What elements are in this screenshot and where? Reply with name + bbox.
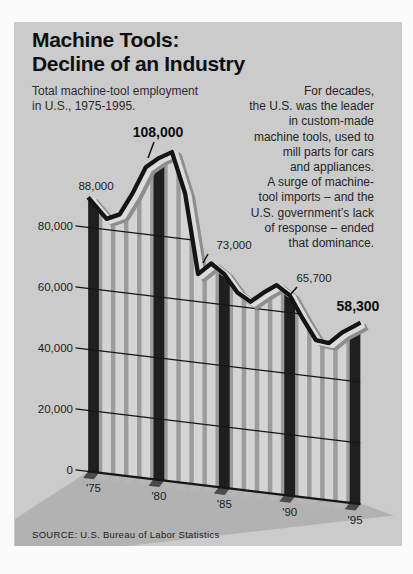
x-axis-label-85: '85 (217, 498, 232, 510)
clipped-layers (88, 80, 360, 530)
year-bar (128, 80, 137, 530)
year-bar (233, 80, 242, 530)
callout-tick (291, 287, 297, 294)
year-bar (272, 80, 281, 530)
y-tick (76, 226, 90, 228)
chart-canvas: 0 20,000 40,000 60,000 80,000 '75 '80 '8… (14, 22, 402, 546)
callout-tick (148, 142, 154, 158)
value-label-88000: 88,000 (78, 180, 113, 192)
year-bar (102, 80, 111, 530)
year-bar (88, 80, 99, 530)
x-axis-label-75: '75 (86, 482, 101, 494)
year-bar (207, 80, 216, 530)
y-tick (76, 470, 90, 472)
y-axis-label-40000: 40,000 (38, 342, 73, 354)
x-axis-label-90: '90 (282, 506, 297, 518)
year-bar (142, 80, 151, 530)
year-bar (168, 80, 177, 530)
year-bar (194, 80, 203, 530)
y-tick (76, 409, 90, 411)
year-bar (312, 80, 321, 530)
source-note: SOURCE: U.S. Bureau of Labor Statistics (32, 529, 220, 540)
value-label-65700: 65,700 (296, 272, 331, 284)
year-bar (154, 80, 165, 530)
year-bar (181, 80, 190, 530)
y-tick (76, 287, 90, 289)
value-label-108000: 108,000 (133, 124, 184, 140)
x-axis-label-80: '80 (151, 490, 166, 502)
value-label-58300: 58,300 (337, 298, 380, 314)
y-axis-label-60000: 60,000 (38, 281, 73, 293)
year-bar (325, 80, 334, 530)
y-axis-label-80000: 80,000 (38, 220, 73, 232)
y-axis-label-20000: 20,000 (38, 403, 73, 415)
year-bar (115, 80, 124, 530)
y-tick (76, 348, 90, 350)
page: Machine Tools: Decline of an Industry To… (0, 0, 413, 574)
infographic-panel: Machine Tools: Decline of an Industry To… (14, 22, 402, 546)
value-label-73000: 73,000 (216, 239, 251, 251)
y-axis-label-0: 0 (67, 464, 73, 476)
x-axis-label-95: '95 (348, 514, 363, 526)
